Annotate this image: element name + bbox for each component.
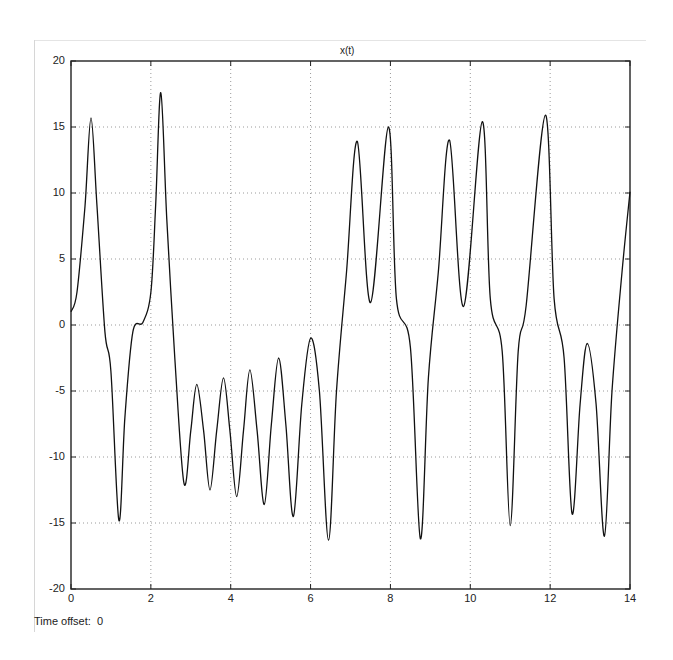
x-tick-label: 6: [296, 592, 326, 604]
x-tick-label: 14: [615, 592, 645, 604]
y-tick-label: 0: [35, 318, 65, 330]
y-tick-label: -10: [35, 450, 65, 462]
y-tick-label: 15: [35, 120, 65, 132]
scope-window: x(t) -20-15-10-505101520 02468101214 Tim…: [0, 0, 673, 660]
x-tick-label: 0: [56, 592, 86, 604]
y-tick-label: 5: [35, 252, 65, 264]
y-tick-label: 10: [35, 186, 65, 198]
time-offset-status: Time offset: 0: [34, 615, 103, 627]
x-tick-label: 10: [455, 592, 485, 604]
series-line-x-t: [71, 93, 630, 541]
y-tick-label: -15: [35, 516, 65, 528]
time-offset-value: 0: [97, 615, 103, 627]
x-tick-label: 12: [535, 592, 565, 604]
x-tick-label: 8: [375, 592, 405, 604]
x-tick-label: 4: [216, 592, 246, 604]
y-tick-label: -5: [35, 384, 65, 396]
time-offset-label: Time offset:: [34, 615, 91, 627]
plot-area: [0, 0, 673, 660]
axes-box: [71, 61, 630, 589]
y-tick-label: 20: [35, 54, 65, 66]
x-tick-label: 2: [136, 592, 166, 604]
